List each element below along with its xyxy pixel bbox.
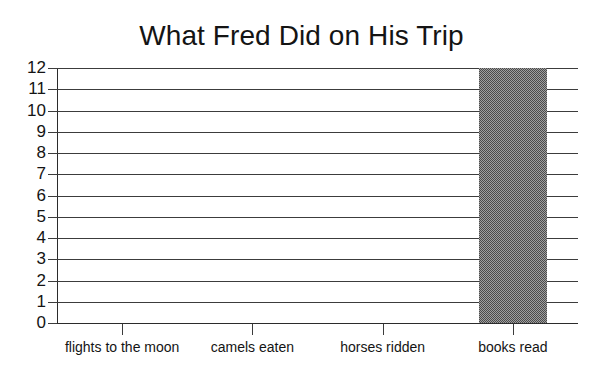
- y-axis-tick-label: 8: [2, 144, 46, 161]
- y-axis-tick: [48, 281, 57, 282]
- y-axis-tick-label: 10: [2, 102, 46, 119]
- y-axis-tick: [48, 111, 57, 112]
- y-axis-tick: [48, 217, 57, 218]
- bar: [479, 68, 547, 323]
- chart-title: What Fred Did on His Trip: [0, 20, 603, 52]
- y-axis-tick: [48, 89, 57, 90]
- y-axis-tick: [48, 238, 57, 239]
- x-axis-tick-label: camels eaten: [187, 338, 317, 356]
- y-axis-tick: [48, 68, 57, 69]
- y-axis-tick-labels: 0123456789101112: [0, 0, 46, 383]
- x-axis-tick-label: horses ridden: [318, 338, 448, 356]
- y-axis-tick: [48, 259, 57, 260]
- bar-chart: What Fred Did on His Trip 01234567891011…: [0, 0, 603, 383]
- y-axis-tick: [48, 302, 57, 303]
- y-axis-tick-label: 2: [2, 272, 46, 289]
- x-axis-tick: [122, 324, 123, 335]
- y-axis-tick-label: 12: [2, 59, 46, 76]
- y-axis-tick: [48, 153, 57, 154]
- y-axis-tick-label: 1: [2, 293, 46, 310]
- x-axis-tick: [252, 324, 253, 335]
- plot-area: [57, 68, 578, 323]
- y-axis-tick: [48, 132, 57, 133]
- y-axis-tick-label: 6: [2, 187, 46, 204]
- x-axis-tick: [513, 324, 514, 335]
- x-axis-tick-label: books read: [448, 338, 578, 356]
- y-axis-tick: [48, 323, 57, 324]
- y-axis-tick-label: 3: [2, 250, 46, 267]
- x-axis-tick: [383, 324, 384, 335]
- y-axis-tick-label: 11: [2, 80, 46, 97]
- y-axis-tick: [48, 174, 57, 175]
- y-axis-tick-label: 5: [2, 208, 46, 225]
- x-axis-tick-label: flights to the moon: [57, 338, 187, 356]
- y-axis-tick: [48, 196, 57, 197]
- y-axis-tick-label: 4: [2, 229, 46, 246]
- y-axis-tick-label: 7: [2, 165, 46, 182]
- y-axis-tick-label: 9: [2, 123, 46, 140]
- gridline: [57, 323, 578, 324]
- y-axis-tick-label: 0: [2, 314, 46, 331]
